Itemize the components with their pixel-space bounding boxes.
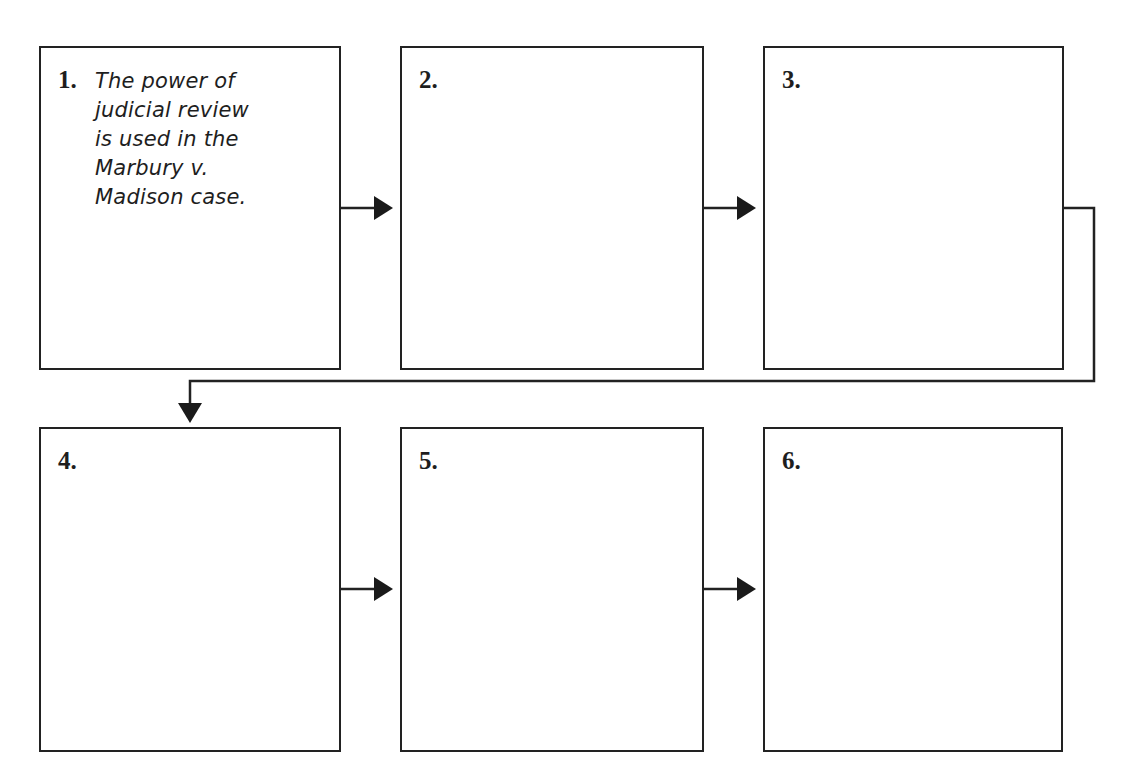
- arrowhead-icon: [374, 577, 393, 601]
- step-box-1: 1. The power of judicial review is used …: [39, 46, 341, 370]
- step-number: 1.: [58, 66, 77, 94]
- step-box-4: 4.: [39, 427, 341, 752]
- step-number: 4.: [58, 447, 77, 475]
- step-number: 6.: [782, 447, 801, 475]
- step-number: 5.: [419, 447, 438, 475]
- step-number: 2.: [419, 66, 438, 94]
- step-box-3: 3.: [763, 46, 1064, 370]
- arrowhead-icon: [178, 403, 202, 423]
- step-box-2: 2.: [400, 46, 704, 370]
- arrowhead-icon: [374, 196, 393, 220]
- arrowhead-icon: [737, 196, 756, 220]
- step-text: The power of judicial review is used in …: [95, 67, 315, 212]
- arrowhead-icon: [737, 577, 756, 601]
- step-box-6: 6.: [763, 427, 1063, 752]
- step-box-5: 5.: [400, 427, 704, 752]
- step-number: 3.: [782, 66, 801, 94]
